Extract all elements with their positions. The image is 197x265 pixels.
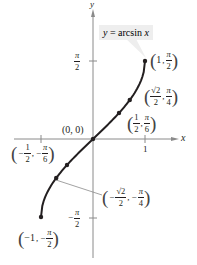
frac-den: 2 (47, 239, 51, 249)
coord-x: 1 (156, 55, 161, 65)
y-tick-label-neg-pi-over-2: −π2 (67, 208, 80, 228)
frac-den: 4 (139, 198, 143, 208)
frac-den: 2 (167, 61, 171, 71)
frac-den: 2 (134, 124, 138, 134)
frac-den: 6 (43, 154, 47, 164)
frac-den: 2 (119, 198, 123, 208)
paren: ) (172, 51, 178, 70)
data-point (91, 137, 95, 141)
y-axis-arrow-icon (91, 9, 95, 17)
frac-den: 6 (145, 124, 149, 134)
data-point (117, 111, 121, 115)
frac-den: 2 (75, 62, 79, 72)
paren: ) (53, 229, 59, 248)
point-label-origin: (0, 0) (62, 125, 84, 135)
frac-num: 1 (133, 113, 139, 124)
minus-sign: − (132, 193, 137, 202)
x-tick-label-one: 1 (143, 145, 148, 154)
point-label-1-pi-over-2: (1,π2) (150, 50, 178, 70)
frac-den: 2 (75, 219, 79, 229)
point-label-neg-1-neg-pi-over-2: (−1,−π2) (18, 228, 59, 248)
data-point (128, 98, 132, 102)
minus-sign: − (40, 234, 45, 243)
point-label-neg-half-neg-pi-over-6: (−12,−π6) (11, 143, 55, 163)
paren: ) (144, 188, 150, 207)
x-axis-arrow-icon (171, 137, 179, 141)
frac-den: 2 (25, 154, 29, 164)
y-axis-label: y (90, 0, 94, 9)
paren: ( (102, 188, 108, 207)
comma: , (32, 149, 34, 158)
comma: , (36, 234, 38, 243)
function-label: y = arcsin x (99, 25, 153, 40)
paren: ( (11, 144, 17, 163)
x-axis-label: x (181, 133, 185, 143)
minus-sign: − (109, 193, 114, 202)
minus-sign: − (36, 149, 41, 158)
minus-sign: − (68, 212, 73, 222)
function-label-eq: = arcsin (107, 27, 144, 38)
comma: , (162, 56, 164, 65)
comma: , (162, 92, 164, 101)
comma: , (127, 193, 129, 202)
frac-num: 1 (24, 143, 30, 154)
paren: ) (150, 114, 156, 133)
data-point (143, 59, 147, 63)
data-point (54, 176, 58, 180)
y-tick-label-pi-over-2: π2 (74, 51, 80, 71)
point-label-half-pi-over-6: (12,π6) (127, 113, 156, 133)
function-label-x: x (144, 27, 148, 38)
data-point (65, 163, 69, 167)
frac-num: √2 (150, 86, 161, 97)
paren: ) (172, 87, 178, 106)
point-label-neg-root2-over-2-neg-pi-over-4: (−√22,−π4) (102, 187, 150, 207)
comma: , (141, 119, 143, 128)
coord-x: −1 (24, 233, 35, 243)
point-label-root2-over-2-pi-over-4: (√22,π4) (144, 86, 178, 106)
data-point (39, 215, 43, 219)
frac-num: π (74, 208, 80, 219)
frac-den: 4 (167, 97, 171, 107)
frac-den: 2 (154, 97, 158, 107)
frac-num: √2 (115, 187, 126, 198)
leader-line (56, 180, 102, 195)
paren: ) (48, 144, 54, 163)
minus-sign: − (18, 149, 23, 158)
frac-num: π (74, 51, 80, 62)
